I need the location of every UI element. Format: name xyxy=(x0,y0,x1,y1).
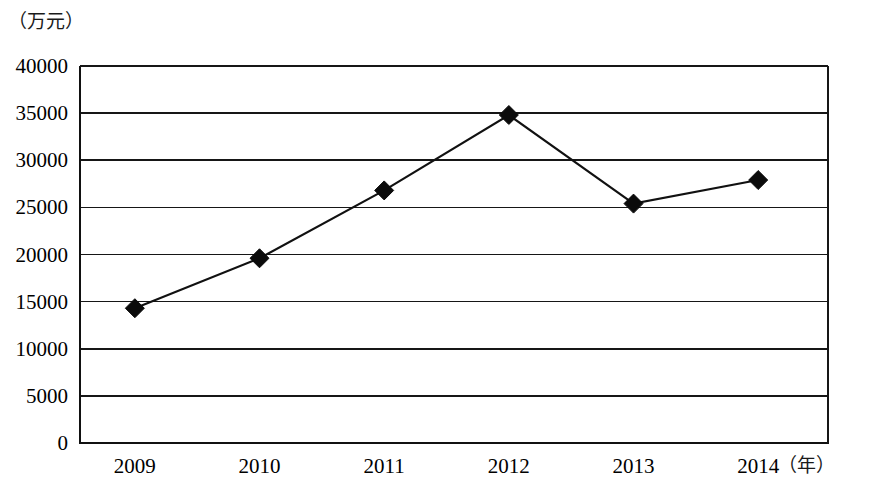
y-tick-label: 15000 xyxy=(16,290,69,314)
y-tick-label: 35000 xyxy=(16,101,69,125)
y-tick-label: 30000 xyxy=(16,148,69,172)
y-tick-label: 5000 xyxy=(26,384,68,408)
chart-container: （万元） （年） 0500010000150002000025000300003… xyxy=(0,0,870,482)
y-tick-label: 40000 xyxy=(16,54,69,78)
x-tick-label: 2011 xyxy=(364,454,405,478)
y-axis-unit-label: （万元） xyxy=(8,10,84,32)
x-tick-label: 2012 xyxy=(488,454,530,478)
x-axis-unit-label: （年） xyxy=(778,454,835,476)
x-tick-label: 2010 xyxy=(239,454,281,478)
line-chart: （万元） （年） 0500010000150002000025000300003… xyxy=(0,0,870,482)
x-tick-label: 2014 xyxy=(737,454,780,478)
y-tick-label: 20000 xyxy=(16,243,69,267)
y-tick-label: 10000 xyxy=(16,337,69,361)
x-tick-label: 2009 xyxy=(114,454,156,478)
y-tick-label: 0 xyxy=(58,431,69,455)
y-tick-label: 25000 xyxy=(16,195,69,219)
x-tick-label: 2013 xyxy=(613,454,655,478)
chart-background xyxy=(0,0,870,482)
